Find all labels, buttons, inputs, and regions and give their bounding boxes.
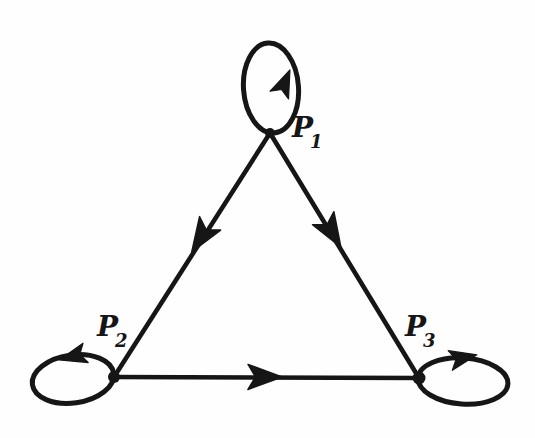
node-label-p1: P1 xyxy=(291,111,323,152)
node-p3 xyxy=(413,372,426,385)
figure-canvas: P1 P2 P3 xyxy=(0,0,535,438)
node-p2 xyxy=(108,371,120,383)
edge-p1-p3 xyxy=(270,133,419,378)
edge-p1-p2 xyxy=(114,133,270,377)
page: { "diagram": { "type": "directed-graph",… xyxy=(0,0,535,438)
node-p1 xyxy=(265,128,275,138)
node-label-p2: P2 xyxy=(96,310,128,351)
node-label-p3: P3 xyxy=(404,310,436,351)
state-diagram: P1 P2 P3 xyxy=(0,0,535,438)
arrowhead-p1-p3-icon xyxy=(313,212,352,254)
